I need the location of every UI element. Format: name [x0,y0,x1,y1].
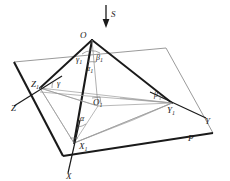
vertex-label-Y1: Y1 [167,105,175,116]
direction-label-S: S [111,9,116,19]
geometry-figure: O X1 Y1 Z1 O1 X Y Z S P α β γ α1 β1 γ1 [0,0,230,181]
axis-label-Y: Y [205,116,211,126]
angle-label-gamma1: γ1 [76,55,82,65]
angle-label-alpha: α [80,114,85,123]
vertex-label-Z1: Z1 [31,79,39,90]
angle-label-gamma: γ [57,79,61,88]
plane-inner-trace [40,88,172,143]
vertex-label-O: O [80,30,87,40]
angle-label-beta: β [153,90,158,99]
direction-arrow-s [103,5,110,28]
plane-p-outline [14,48,213,156]
figure-canvas: O X1 Y1 Z1 O1 X Y Z S P α β γ α1 β1 γ1 [0,0,230,181]
plane-label-P: P [187,133,194,143]
angle-label-alpha1: α1 [86,64,93,74]
tetrahedron-thick-edges [40,40,172,143]
axis-label-X: X [65,171,72,181]
angle-label-beta1: β1 [95,53,103,63]
vertex-label-O1: O1 [93,97,103,108]
coordinate-axes [14,76,206,173]
construction-lines [40,40,172,143]
vertex-label-X1: X1 [78,141,88,152]
